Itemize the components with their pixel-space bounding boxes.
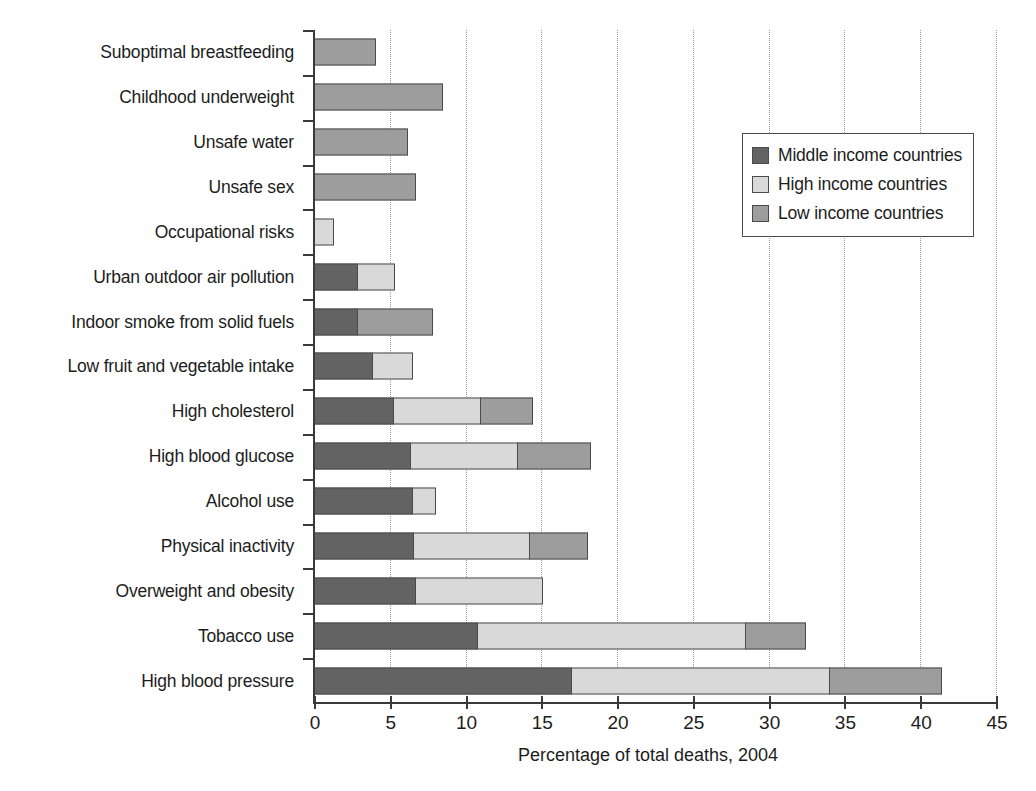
x-axis-tick [314, 696, 316, 709]
bar-segment[interactable] [314, 84, 443, 111]
bar-segment[interactable] [413, 532, 530, 559]
chart-row: Physical inactivity [0, 524, 1036, 569]
x-axis-tick-label: 35 [835, 712, 856, 734]
x-axis-tick [920, 696, 922, 709]
bar-segment[interactable] [829, 667, 943, 694]
stacked-bar[interactable] [314, 622, 806, 649]
x-axis-tick-label: 45 [986, 712, 1007, 734]
stacked-bar[interactable] [314, 443, 591, 470]
bar-segment[interactable] [314, 39, 376, 66]
bar-segment[interactable] [393, 398, 481, 425]
bar-segment[interactable] [314, 577, 416, 604]
category-label: Alcohol use [206, 491, 294, 512]
stacked-bar[interactable] [314, 577, 543, 604]
stacked-bar[interactable] [314, 398, 533, 425]
category-label: Unsafe sex [208, 176, 294, 197]
bar-segment[interactable] [314, 443, 411, 470]
legend-item: Low income countries [752, 199, 962, 228]
bar-segment[interactable] [314, 488, 413, 515]
chart-row: Indoor smoke from solid fuels [0, 299, 1036, 344]
stacked-bar[interactable] [314, 129, 408, 156]
bar-segment[interactable] [410, 443, 518, 470]
bar-chart: Suboptimal breastfeedingChildhood underw… [0, 0, 1036, 791]
category-label: Childhood underweight [119, 87, 294, 108]
x-axis-tick [769, 696, 771, 709]
x-axis-tick-label: 30 [759, 712, 780, 734]
stacked-bar[interactable] [314, 488, 436, 515]
bar-segment[interactable] [314, 622, 478, 649]
stacked-bar[interactable] [314, 667, 942, 694]
x-axis-tick [541, 696, 543, 709]
legend-label-middle-income: Middle income countries [778, 145, 962, 166]
chart-row: High cholesterol [0, 389, 1036, 434]
chart-row: Suboptimal breastfeeding [0, 30, 1036, 75]
legend: Middle income countries High income coun… [742, 133, 974, 237]
chart-row: Alcohol use [0, 479, 1036, 524]
chart-row: High blood pressure [0, 658, 1036, 703]
chart-row: Overweight and obesity [0, 568, 1036, 613]
bar-segment[interactable] [314, 308, 358, 335]
bar-segment[interactable] [372, 353, 413, 380]
x-axis-tick-label: 25 [683, 712, 704, 734]
chart-row: Urban outdoor air pollution [0, 254, 1036, 299]
stacked-bar[interactable] [314, 39, 376, 66]
x-axis-tick [466, 696, 468, 709]
bar-segment[interactable] [480, 398, 533, 425]
x-axis-tick [844, 696, 846, 709]
legend-label-low-income: Low income countries [778, 203, 943, 224]
stacked-bar[interactable] [314, 353, 413, 380]
x-axis-tick [693, 696, 695, 709]
bar-segment[interactable] [314, 398, 394, 425]
bar-segment[interactable] [415, 577, 544, 604]
bar-segment[interactable] [314, 667, 572, 694]
stacked-bar[interactable] [314, 308, 433, 335]
chart-row: Tobacco use [0, 613, 1036, 658]
category-label: Unsafe water [193, 132, 294, 153]
stacked-bar[interactable] [314, 218, 334, 245]
category-label: Indoor smoke from solid fuels [71, 311, 294, 332]
category-label: High blood pressure [141, 670, 294, 691]
bar-segment[interactable] [314, 532, 414, 559]
x-axis-tick [996, 696, 998, 709]
bar-segment[interactable] [571, 667, 830, 694]
bar-segment[interactable] [314, 173, 416, 200]
category-label: Physical inactivity [161, 535, 294, 556]
bar-segment[interactable] [314, 129, 408, 156]
stacked-bar[interactable] [314, 263, 395, 290]
bar-segment[interactable] [357, 263, 395, 290]
legend-label-high-income: High income countries [778, 174, 947, 195]
bar-segment[interactable] [314, 353, 373, 380]
bar-segment[interactable] [477, 622, 747, 649]
x-axis-title-text: Percentage of total deaths, 2004 [258, 745, 778, 765]
bar-segment[interactable] [745, 622, 806, 649]
chart-row: High blood glucose [0, 434, 1036, 479]
bar-segment[interactable] [314, 218, 334, 245]
category-label: Urban outdoor air pollution [93, 266, 294, 287]
category-label: High cholesterol [172, 401, 294, 422]
bar-segment[interactable] [529, 532, 588, 559]
bar-segment[interactable] [517, 443, 591, 470]
bar-segment[interactable] [357, 308, 433, 335]
legend-item: Middle income countries [752, 141, 962, 170]
stacked-bar[interactable] [314, 532, 588, 559]
stacked-bar[interactable] [314, 173, 416, 200]
legend-swatch-high-income [752, 176, 769, 193]
x-axis-tick-label: 20 [608, 712, 629, 734]
legend-swatch-low-income [752, 205, 769, 222]
x-axis-tick-label: 0 [310, 712, 321, 734]
bar-segment[interactable] [412, 488, 436, 515]
x-axis-tick-label: 10 [456, 712, 477, 734]
legend-swatch-middle-income [752, 147, 769, 164]
category-label: Occupational risks [155, 221, 294, 242]
stacked-bar[interactable] [314, 84, 443, 111]
x-axis-tick-label: 5 [385, 712, 396, 734]
legend-item: High income countries [752, 170, 962, 199]
category-label: High blood glucose [149, 446, 294, 467]
category-label: Tobacco use [198, 625, 294, 646]
bar-segment[interactable] [314, 263, 358, 290]
x-axis-tick [390, 696, 392, 709]
x-axis-title: Percentage of total deaths, 2004 [0, 745, 1036, 766]
x-axis-tick [617, 696, 619, 709]
category-label: Overweight and obesity [116, 580, 294, 601]
category-label: Suboptimal breastfeeding [100, 42, 294, 63]
